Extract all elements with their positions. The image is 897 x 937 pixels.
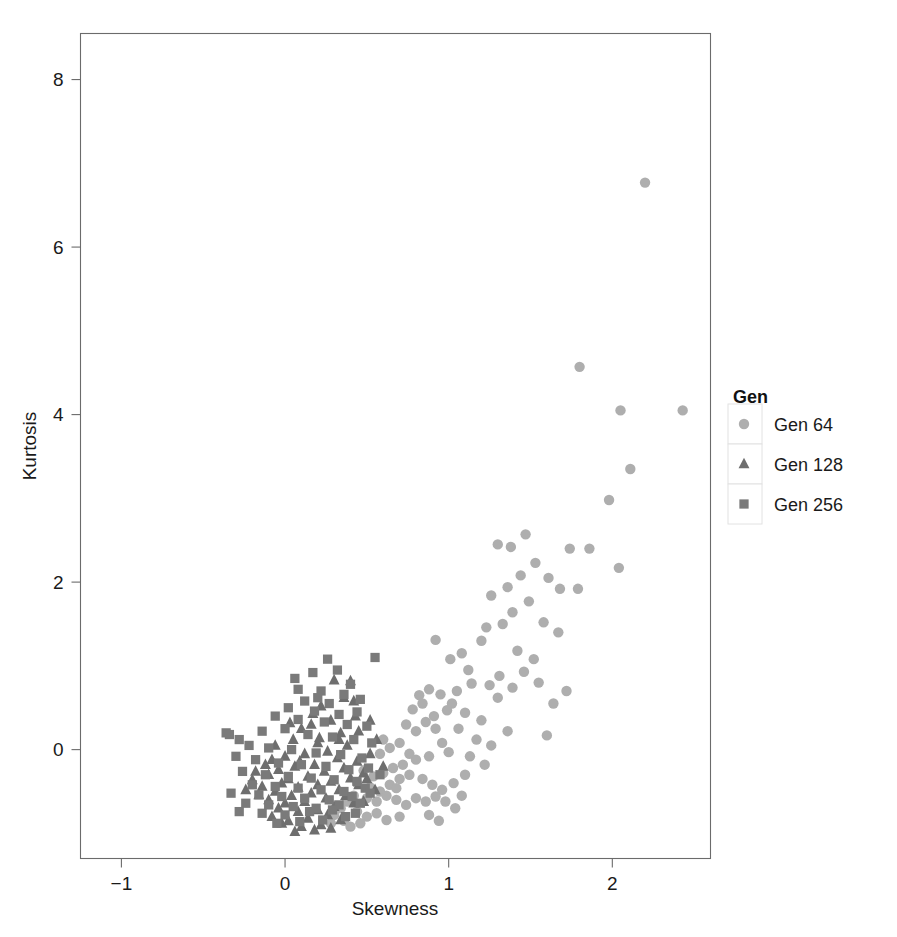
data-point [314, 732, 325, 743]
data-point [371, 796, 381, 806]
data-point [258, 727, 267, 736]
data-point [391, 783, 401, 793]
data-point [440, 796, 450, 806]
data-point [427, 780, 437, 790]
data-point [321, 762, 330, 771]
data-point [424, 751, 434, 761]
data-point [339, 787, 348, 796]
data-point [520, 529, 530, 539]
data-point [318, 815, 327, 824]
data-point [308, 668, 317, 677]
data-point [502, 726, 512, 736]
legend-item-label: Gen 128 [774, 455, 843, 475]
data-point [542, 730, 552, 740]
data-point [309, 758, 320, 769]
data-point [295, 817, 304, 826]
x-tick-label: 1 [443, 873, 454, 894]
data-point [371, 808, 381, 818]
data-point [640, 177, 650, 187]
data-point [272, 819, 281, 828]
data-point [284, 772, 293, 781]
data-point [404, 749, 414, 759]
data-point [553, 627, 563, 637]
data-point [565, 543, 575, 553]
data-point [356, 695, 365, 704]
data-point [271, 711, 280, 720]
x-tick-label: 2 [607, 873, 618, 894]
legend-item-gen-64[interactable]: Gen 64 [728, 404, 833, 444]
data-point [584, 543, 594, 553]
data-point [502, 582, 512, 592]
data-point [604, 495, 614, 505]
data-point [226, 789, 235, 798]
data-point [231, 752, 240, 761]
data-point [424, 684, 434, 694]
series-gen-256 [222, 653, 385, 828]
series-gen-64 [326, 177, 688, 831]
data-point [424, 810, 434, 820]
scatter-plot: −1012 02468 Skewness Kurtosis Gen Gen 64… [0, 0, 897, 937]
y-axis-title: Kurtosis [19, 412, 40, 481]
data-point [370, 653, 379, 662]
legend-item-gen-256[interactable]: Gen 256 [728, 484, 843, 524]
x-tick-label: −1 [111, 873, 133, 894]
data-series-layer [222, 177, 688, 836]
data-point [421, 717, 431, 727]
data-point [251, 755, 260, 764]
data-point [543, 573, 553, 583]
data-point [457, 790, 467, 800]
data-point [328, 805, 337, 814]
data-point [310, 706, 319, 715]
y-tick-label: 2 [53, 572, 64, 593]
data-point [271, 782, 280, 791]
y-axis-ticks: 02468 [53, 69, 81, 760]
data-point [484, 680, 494, 690]
data-point [497, 619, 507, 629]
data-point [435, 689, 445, 699]
data-point [325, 795, 334, 804]
data-point [235, 735, 244, 744]
data-point [466, 678, 476, 688]
data-point [244, 741, 253, 750]
data-point [507, 682, 517, 692]
data-point [407, 704, 417, 714]
data-point [476, 715, 486, 725]
legend-item-label: Gen 64 [774, 415, 833, 435]
data-point [555, 584, 565, 594]
data-point [352, 777, 361, 786]
data-point [307, 773, 316, 782]
data-point [411, 726, 421, 736]
data-point [323, 655, 332, 664]
data-point [367, 738, 376, 747]
legend-item-gen-128[interactable]: Gen 128 [728, 444, 843, 484]
data-point [421, 796, 431, 806]
data-point [287, 745, 296, 754]
data-point [430, 791, 440, 801]
data-point [394, 774, 404, 784]
data-point [334, 710, 343, 719]
legend-entries: Gen 64Gen 128Gen 256 [728, 404, 843, 524]
data-point [284, 703, 293, 712]
data-point [457, 648, 467, 658]
data-point [529, 654, 539, 664]
data-point [339, 690, 348, 699]
data-point [524, 596, 534, 606]
data-point [507, 607, 517, 617]
data-point [437, 738, 447, 748]
data-point [625, 464, 635, 474]
data-point [305, 807, 314, 816]
data-point [349, 735, 358, 744]
data-point [443, 747, 453, 757]
y-tick-label: 4 [53, 404, 64, 425]
data-point [250, 765, 261, 776]
x-tick-label: 0 [280, 873, 291, 894]
legend: Gen Gen 64Gen 128Gen 256 [728, 387, 843, 524]
data-point [515, 570, 525, 580]
data-point [677, 405, 687, 415]
data-point [398, 759, 408, 769]
data-point [442, 705, 452, 715]
data-point [248, 780, 257, 789]
data-point [494, 671, 504, 681]
data-point [430, 635, 440, 645]
data-point [320, 717, 329, 726]
